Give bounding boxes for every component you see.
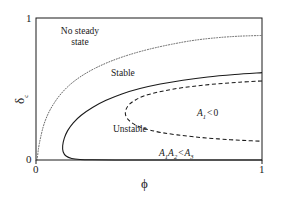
axis-ticks [36, 160, 262, 164]
zero-value: 0 [213, 108, 218, 118]
unstable-text: Unstable [113, 124, 147, 134]
region-label-stable: Stable [111, 68, 135, 79]
region-label-no-steady-state: No steady state [47, 26, 113, 48]
y-axis-title-subscript: c [22, 95, 30, 98]
a3-subscript-routh: 3 [190, 153, 193, 160]
no-steady-state-line-2: state [47, 37, 113, 48]
no-steady-state-line-1: No steady [47, 26, 113, 37]
stability-diagram-figure: 1 0 0 1 δc ϕ No steady state Stable Unst… [0, 0, 286, 201]
y-axis-title: δc [12, 95, 30, 104]
x-axis-tick-max: 1 [259, 163, 265, 175]
y-axis-title-base: δ [12, 98, 27, 104]
y-axis-tick-min: 0 [26, 153, 32, 165]
plot-canvas [0, 0, 286, 201]
x-axis-tick-min: 0 [33, 163, 39, 175]
x-axis-title: ϕ [141, 176, 148, 192]
region-label-unstable: Unstable [113, 124, 147, 135]
annotation-routh-hurwitz-condition: A1A2<A3 [159, 148, 194, 160]
y-axis-tick-max: 1 [26, 12, 32, 24]
annotation-a1-less-than-zero: A1<0 [197, 108, 218, 120]
